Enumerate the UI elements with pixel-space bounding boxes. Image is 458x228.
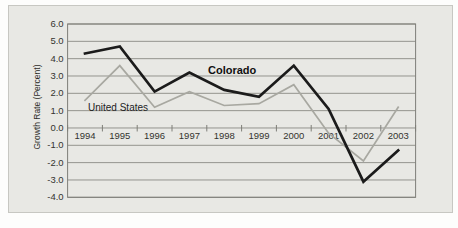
x-tick-label: 1998 [214,130,235,141]
chart-generated-layer: 6.05.04.03.02.01.00.0-1.0-2.0-3.0-4.0199… [9,6,453,213]
x-tick-label: 1994 [74,130,95,141]
series-label-united-states: United States [88,102,148,113]
x-tick-label: 2002 [353,130,374,141]
y-tick-label: -1.0 [47,139,63,150]
x-tick-label: 1995 [109,130,130,141]
y-tick-label: 6.0 [50,18,63,29]
y-tick-label: 3.0 [50,70,63,81]
x-tick-label: 2000 [283,130,304,141]
x-tick-label: 1997 [179,130,200,141]
x-tick-label: 1999 [248,130,269,141]
y-tick-label: -2.0 [47,157,63,168]
y-tick-label: 4.0 [50,53,63,64]
chart-panel-background [9,6,453,213]
y-tick-label: -4.0 [47,191,63,202]
x-tick-label: 2003 [388,130,409,141]
y-tick-label: 0.0 [50,122,63,133]
growth-rate-chart-panel: 6.05.04.03.02.01.00.0-1.0-2.0-3.0-4.0199… [0,0,458,228]
y-tick-label: 1.0 [50,105,63,116]
y-tick-label: 5.0 [50,35,63,46]
growth-chart-svg: 6.05.04.03.02.01.00.0-1.0-2.0-3.0-4.0199… [0,0,458,228]
y-axis-title: Growth Rate (Percent) [32,64,42,149]
series-label-colorado: Colorado [208,64,257,76]
y-tick-label: -3.0 [47,174,63,185]
x-tick-label: 1996 [144,130,165,141]
y-tick-label: 2.0 [50,87,63,98]
